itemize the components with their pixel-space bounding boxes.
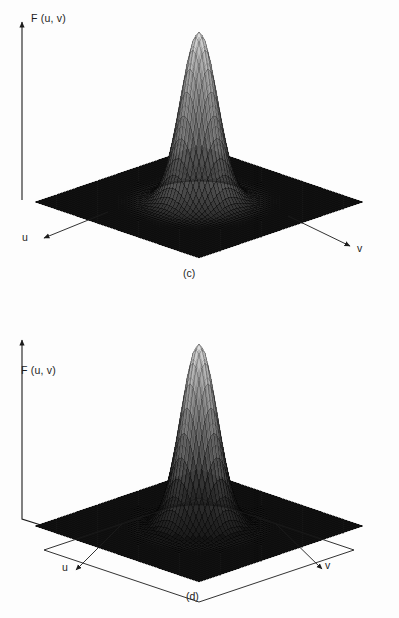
caption-c: (c): [183, 268, 195, 279]
u-axis-label-c: u: [22, 232, 28, 243]
u-axis-label-d: u: [62, 562, 68, 573]
surface-plot-c: [0, 0, 399, 292]
z-axis-label-c: F (u, v): [31, 13, 66, 24]
figure-page: F (u, v) u v (c) F (u, v) u v (d): [0, 0, 399, 618]
v-axis-label-d: v: [325, 560, 330, 571]
caption-d: (d): [186, 591, 199, 602]
surface-plot-d: [0, 292, 399, 618]
v-axis-label-c: v: [357, 243, 362, 254]
z-axis-label-d: F (u, v): [21, 365, 56, 376]
panel-d: [0, 292, 399, 618]
panel-c: F (u, v) u v (c): [0, 0, 399, 292]
